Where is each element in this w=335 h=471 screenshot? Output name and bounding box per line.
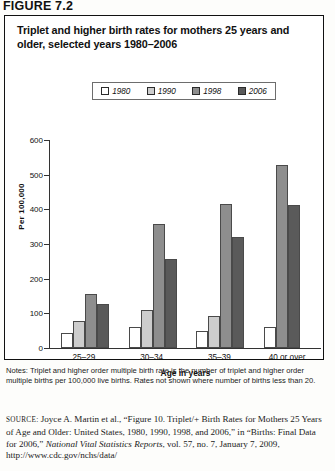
bar-1998-30–34 xyxy=(153,224,165,348)
y-tickmark-500 xyxy=(44,175,49,176)
x-category-label: 25–29 xyxy=(50,353,118,362)
legend-swatch-2006 xyxy=(238,87,246,95)
legend-swatch-1990 xyxy=(147,87,155,95)
y-tickmark-0 xyxy=(44,348,49,349)
y-tick-300: 300 xyxy=(17,240,43,249)
y-tick-200: 200 xyxy=(17,274,43,283)
bar-2006-30–34 xyxy=(165,259,177,348)
figure-label: FIGURE 7.2 xyxy=(3,0,73,13)
bar-1980-40-or-over xyxy=(264,327,276,348)
legend-label-1998: 1998 xyxy=(203,87,221,96)
bar-2006-25–29 xyxy=(97,304,109,348)
y-tickmark-200 xyxy=(44,279,49,280)
x-axis-line xyxy=(49,348,321,349)
bar-1980-25–29 xyxy=(61,333,73,348)
bar-group xyxy=(129,140,178,348)
bar-1990-35–39 xyxy=(208,316,220,348)
y-tick-0: 0 xyxy=(17,344,43,353)
bar-1998-35–39 xyxy=(220,204,232,348)
legend-item-1990: 1990 xyxy=(147,87,176,96)
x-category-label: 30–34 xyxy=(118,353,186,362)
y-tick-400: 400 xyxy=(17,205,43,214)
legend-item-1998: 1998 xyxy=(192,87,221,96)
y-tick-600: 600 xyxy=(17,136,43,145)
y-tick-100: 100 xyxy=(17,309,43,318)
y-tick-500: 500 xyxy=(17,170,43,179)
legend-item-2006: 2006 xyxy=(238,87,267,96)
bar-1980-30–34 xyxy=(129,327,141,348)
legend-item-1980: 1980 xyxy=(101,87,130,96)
chart-legend: 1980199019982006 xyxy=(92,82,276,100)
bar-2006-40-or-over xyxy=(288,205,300,348)
source-prefix: SOURCE: xyxy=(6,416,38,424)
x-category-label: 35–39 xyxy=(186,353,254,362)
y-tickmark-300 xyxy=(44,244,49,245)
bar-1990-25–29 xyxy=(73,321,85,348)
y-axis-ticks: 0100200300400500600 xyxy=(13,106,43,351)
figure-box: Triplet and higher birth rates for mothe… xyxy=(4,15,324,360)
figure-title: Triplet and higher birth rates for mothe… xyxy=(17,23,312,51)
chart-plot-area: Per 100,000 0100200300400500600 25–2930–… xyxy=(5,106,323,361)
y-tickmark-600 xyxy=(44,140,49,141)
figure-source: SOURCE: Joyce A. Martin et al., “Figure … xyxy=(6,414,328,462)
bar-group xyxy=(264,140,313,348)
bar-1990-30–34 xyxy=(141,310,153,348)
bar-1998-25–29 xyxy=(85,294,97,348)
bar-1998-40-or-over xyxy=(276,165,288,348)
y-tickmark-400 xyxy=(44,209,49,210)
bar-group xyxy=(196,140,245,348)
legend-swatch-1998 xyxy=(192,87,200,95)
legend-label-2006: 2006 xyxy=(249,87,267,96)
bar-2006-35–39 xyxy=(232,237,244,348)
bar-1980-35–39 xyxy=(196,331,208,348)
legend-label-1990: 1990 xyxy=(158,87,176,96)
legend-swatch-1980 xyxy=(101,87,109,95)
x-category-label: 40 or over xyxy=(253,353,321,362)
figure-notes: Notes: Triplet and higher order multiple… xyxy=(6,366,328,387)
y-tickmark-100 xyxy=(44,313,49,314)
figure-page: FIGURE 7.2 Triplet and higher birth rate… xyxy=(0,0,335,471)
bar-groups xyxy=(50,140,321,348)
legend-label-1980: 1980 xyxy=(112,87,130,96)
source-publication: National Vital Statistics Reports xyxy=(46,439,163,449)
bar-group xyxy=(61,140,110,348)
